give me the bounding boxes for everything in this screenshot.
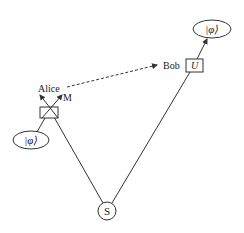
operation-label: U bbox=[191, 60, 199, 71]
source-label: S bbox=[104, 205, 110, 217]
source-node: S bbox=[98, 202, 116, 220]
entangled-line-alice bbox=[54, 117, 103, 203]
input-state-node: |φ⟩ bbox=[13, 131, 49, 149]
alice-measurement-box bbox=[40, 95, 62, 118]
input-line bbox=[37, 118, 45, 132]
bob-label: Bob bbox=[163, 60, 180, 71]
output-state-node: |φ⟩ bbox=[193, 20, 231, 38]
entangled-line-bob bbox=[112, 72, 190, 203]
input-state-label: |φ⟩ bbox=[24, 134, 37, 146]
alice-label: Alice bbox=[38, 83, 60, 94]
output-state-label: |φ⟩ bbox=[205, 23, 218, 35]
output-line bbox=[197, 39, 207, 59]
teleportation-diagram: S Alice M |φ⟩ Bob U |φ⟩ bbox=[0, 0, 244, 233]
measurement-label: M bbox=[63, 92, 72, 103]
classical-channel bbox=[67, 65, 157, 87]
bob-operation-box: U bbox=[186, 59, 203, 72]
